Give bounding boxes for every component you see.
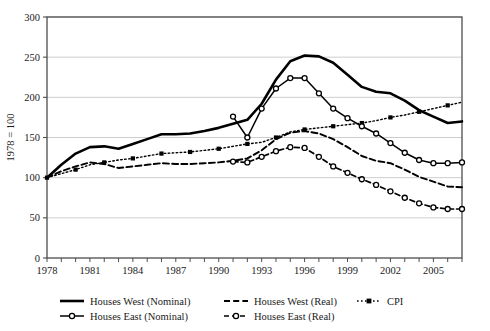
y-tick-label-100: 100 (24, 172, 40, 183)
x-tick-label-1993: 1993 (251, 265, 272, 276)
series-marker (374, 131, 379, 136)
y-tick-label-250: 250 (24, 52, 40, 63)
series-marker (302, 145, 307, 150)
legend-item-west-real[interactable]: Houses West (Real) (224, 296, 337, 308)
legend-label-east-real: Houses East (Real) (254, 311, 335, 323)
series-line (233, 147, 462, 209)
series-marker (245, 135, 250, 140)
x-tick-label-1987: 1987 (165, 265, 186, 276)
series-marker (402, 195, 407, 200)
series-marker (374, 182, 379, 187)
series-marker (388, 115, 392, 119)
chart-legend: Houses West (Nominal)Houses West (Real)C… (60, 296, 404, 323)
x-tick-label-1990: 1990 (208, 265, 229, 276)
series-marker (131, 156, 135, 160)
legend-item-west-nominal[interactable]: Houses West (Nominal) (60, 296, 191, 308)
gridlines (47, 17, 462, 218)
series-marker (245, 160, 250, 165)
series-marker (274, 135, 278, 139)
series-marker (273, 86, 278, 91)
legend-label-east-nominal: Houses East (Nominal) (90, 311, 188, 323)
x-tick-label-2002: 2002 (380, 265, 401, 276)
series-marker (316, 91, 321, 96)
legend-marker-east-nominal (69, 313, 74, 318)
series-marker (460, 160, 465, 165)
series-houses-west-real (47, 131, 462, 187)
legend-label-west-real: Houses West (Real) (254, 296, 337, 308)
y-axis-title: 1978 = 100 (5, 114, 16, 162)
y-tick-label-0: 0 (35, 253, 40, 264)
series-marker (345, 170, 350, 175)
x-tick-label-1999: 1999 (337, 265, 358, 276)
series-marker (245, 142, 249, 146)
series-marker (460, 207, 465, 212)
legend-item-east-nominal[interactable]: Houses East (Nominal) (60, 311, 188, 323)
series-marker (431, 161, 436, 166)
series-line (47, 131, 462, 187)
series-marker (302, 127, 306, 131)
series-line (47, 56, 462, 178)
series-houses-east-real (231, 145, 465, 212)
series-marker (273, 149, 278, 154)
x-tick-label-1984: 1984 (122, 265, 144, 276)
series-marker (446, 103, 450, 107)
legend-label-cpi: CPI (387, 296, 404, 307)
x-tick-label-1978: 1978 (37, 265, 58, 276)
y-tick-label-200: 200 (24, 92, 40, 103)
x-tick-label-2005: 2005 (423, 265, 444, 276)
series-marker (388, 189, 393, 194)
series-marker (417, 110, 421, 114)
series-houses-east-nominal (231, 76, 465, 166)
series-marker (445, 207, 450, 212)
series-marker (331, 164, 336, 169)
series-marker (288, 76, 293, 81)
series-marker (417, 157, 422, 162)
series-marker (302, 76, 307, 81)
legend-marker-cpi (367, 299, 372, 304)
series-marker (45, 176, 49, 180)
series-marker (331, 124, 335, 128)
series-marker (288, 145, 293, 150)
data-series-group (45, 56, 465, 212)
series-marker (231, 114, 236, 119)
legend-marker-east-real (233, 313, 238, 318)
series-marker (316, 154, 321, 159)
series-marker (345, 116, 350, 121)
legend-item-cpi[interactable]: CPI (357, 296, 404, 307)
series-marker (259, 154, 264, 159)
x-tick-label-1996: 1996 (294, 265, 315, 276)
series-marker (388, 141, 393, 146)
series-marker (359, 124, 364, 129)
series-marker (217, 147, 221, 151)
series-marker (331, 106, 336, 111)
y-tick-label-150: 150 (24, 132, 40, 143)
series-marker (102, 160, 106, 164)
legend-label-west-nominal: Houses West (Nominal) (90, 296, 191, 308)
series-marker (231, 159, 236, 164)
series-marker (359, 177, 364, 182)
series-marker (188, 150, 192, 154)
y-tick-label-300: 300 (24, 12, 40, 23)
x-tick-label-1981: 1981 (79, 265, 100, 276)
series-houses-west-nominal (47, 56, 462, 178)
line-chart-svg: 0501001502002503001978 = 100197819811984… (0, 0, 490, 331)
series-marker (417, 201, 422, 206)
y-axis: 050100150200250300 (24, 12, 47, 264)
series-marker (259, 106, 264, 111)
series-marker (431, 205, 436, 210)
y-tick-label-50: 50 (30, 212, 41, 223)
series-marker (402, 150, 407, 155)
legend-item-east-real[interactable]: Houses East (Real) (224, 311, 335, 323)
x-axis: 1978198119841987199019931996199920022005 (37, 258, 463, 276)
series-marker (159, 151, 163, 155)
chart-page: 0501001502002503001978 = 100197819811984… (0, 0, 490, 331)
chart-figure: 0501001502002503001978 = 100197819811984… (0, 0, 490, 331)
series-marker (445, 161, 450, 166)
series-marker (74, 168, 78, 172)
